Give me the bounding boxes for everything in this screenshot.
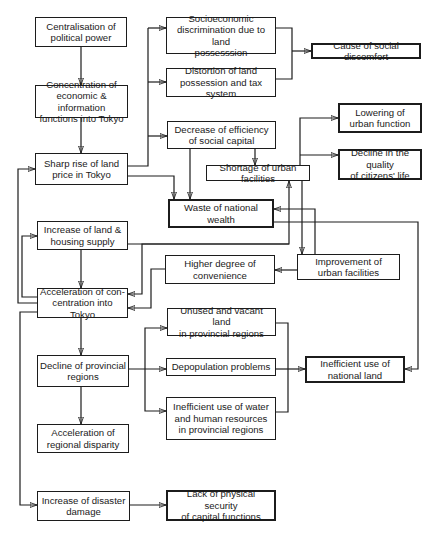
node-decline-provincial: Decline of provincial regions (37, 355, 129, 387)
edge-decline-to-water (145, 369, 166, 411)
edge-convenience-to-acceleration (128, 269, 165, 308)
node-lowering-function: Lowering of urban function (338, 103, 422, 133)
node-inefficient-land: Inefficient use of national land (305, 356, 405, 383)
node-waste-wealth: Waste of national wealth (168, 199, 274, 228)
edge-acceleration-to-disaster (20, 312, 37, 505)
node-inefficient-water: Inefficient use of water and human resou… (166, 397, 276, 440)
node-centralisation: Centralisation of political power (35, 17, 127, 47)
node-distortion: Distortion of land possession and tax sy… (166, 68, 276, 97)
node-socioeconomic-discrimination: Socioeconomic discrimination due to land… (166, 17, 276, 54)
edge-socio-bracket (276, 28, 292, 79)
node-increase-supply: Increase of land & housing supply (37, 221, 128, 250)
edge-provincial-bracket (276, 323, 288, 412)
edge-sharp-rise-to-waste (128, 176, 174, 199)
edge-waste-to-inefficient-land (274, 222, 418, 369)
node-social-discomfort: Cause of social discomfort (311, 43, 421, 59)
node-regional-disparity: Acceleration of regional disparity (37, 424, 129, 453)
node-decrease-efficiency: Decrease of efficiency of social capital (167, 121, 276, 149)
node-improvement-facilities: Improvement of urban facilities (297, 254, 400, 280)
node-unused-land: Unused and vacant land in provincial reg… (167, 308, 276, 336)
node-acceleration-concentration: Acceleration of con- centration into Tok… (37, 288, 128, 318)
edge-acceleration-to-supply (22, 236, 37, 297)
node-decline-quality: Decline in the quality of citizens' life (338, 149, 422, 180)
node-disaster-damage: Increase of disaster damage (37, 491, 130, 521)
edge-improvement-to-waste (274, 209, 315, 254)
edge-sharp-rise-trunk (128, 28, 148, 166)
node-physical-security: Lack of physical security of capital fun… (166, 490, 276, 521)
edge-shortage-trunk (300, 118, 338, 165)
node-shortage-facilities: Shortage of urban facilities (206, 165, 310, 181)
node-depopulation: Depopulation problems (166, 358, 276, 376)
node-higher-convenience: Higher degree of convenience (165, 255, 275, 284)
node-concentration: Concentration of economic & information … (35, 85, 128, 118)
node-sharp-rise: Sharp rise of land price in Tokyo (35, 153, 128, 185)
flowchart-diagram: Centralisation of political power Concen… (0, 0, 439, 537)
edge-decline-trunk (145, 328, 167, 369)
